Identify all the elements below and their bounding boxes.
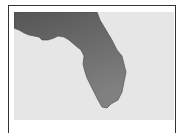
map-area [14, 12, 174, 120]
florida-shape [14, 12, 126, 108]
florida-map [14, 12, 174, 120]
map-caption [14, 122, 174, 132]
